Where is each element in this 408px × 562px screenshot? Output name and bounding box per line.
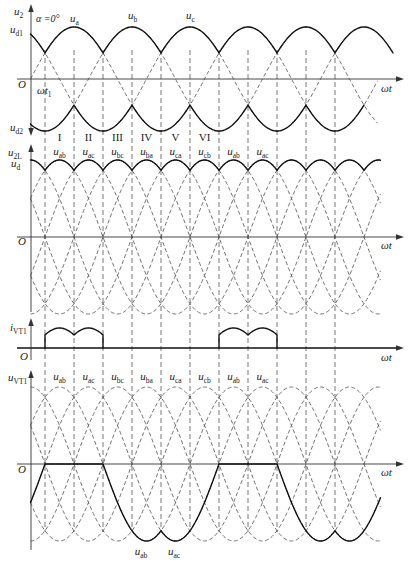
trough-label-uab: uab — [135, 545, 148, 560]
interval-label: uba — [140, 145, 153, 160]
vt1-voltage-curve — [31, 464, 381, 541]
interval-label: ucb — [198, 145, 211, 160]
origin-label: O — [18, 463, 26, 475]
interval-label: uab — [53, 370, 66, 385]
ud-envelope — [31, 160, 381, 170]
x-axis-arrow-icon — [396, 461, 404, 466]
y-axis-label-ivt1: iVT1 — [10, 321, 27, 336]
x-axis-label: ωt — [381, 239, 393, 251]
origin-label: O — [18, 235, 26, 247]
alpha-label: α =0° — [36, 13, 60, 24]
y-axis-down-arrow-icon — [28, 128, 33, 136]
interval-label: uac — [256, 145, 269, 160]
segment-label-3: III — [112, 131, 123, 143]
phase-b-label: ub — [128, 9, 138, 24]
x-axis-label: ωt — [381, 82, 393, 94]
origin-label: O — [20, 350, 28, 362]
interval-label: uab — [227, 370, 240, 385]
ud2-envelope — [31, 105, 365, 131]
x-axis-label: ωt — [381, 466, 393, 478]
vt1-voltage-panel: uVT1 uab uac ubc uba uca ucb uab uac O ω… — [8, 370, 404, 560]
commutation-lines — [45, 50, 335, 532]
y-axis-label-uvt1: uVT1 — [8, 371, 27, 386]
vt1-current-panel: iVT1 O ωt — [10, 318, 404, 363]
ud2-label: ud2 — [10, 121, 23, 136]
segment-label-5: V — [172, 131, 180, 143]
interval-label: uac — [256, 370, 269, 385]
interval-label: uab — [53, 145, 66, 160]
x-axis-label: ωt — [381, 351, 393, 363]
x-axis-arrow-icon — [396, 76, 404, 81]
origin-label: O — [18, 78, 26, 90]
segment-label-6: VI — [199, 131, 211, 143]
phase-a-label: ua — [70, 12, 80, 27]
interval-label: ucb — [198, 370, 211, 385]
interval-label: uca — [169, 145, 182, 160]
trough-label-uac: uac — [168, 545, 181, 560]
x-axis-arrow-icon — [396, 345, 404, 350]
interval-label: uac — [82, 370, 95, 385]
phase-voltage-panel: u2 α =0° ua ub uc ud1 O ωt1 ud2 ωt I II … — [10, 4, 404, 143]
y-axis-up-arrow-icon — [28, 370, 33, 378]
y-axis-label-u2: u2 — [14, 5, 24, 20]
y-axis-up-arrow-icon — [28, 144, 33, 152]
x-axis-arrow-icon — [396, 234, 404, 239]
y-axis-up-arrow-icon — [28, 318, 33, 326]
y-axis-up-arrow-icon — [28, 4, 33, 12]
wt1-label: ωt1 — [37, 84, 52, 99]
segment-label-2: II — [85, 131, 93, 143]
interval-label: uca — [169, 370, 182, 385]
interval-label: ubc — [111, 370, 124, 385]
rectifier-waveform-diagram: u2 α =0° ua ub uc ud1 O ωt1 ud2 ωt I II … — [0, 0, 408, 562]
segment-label-1: I — [58, 131, 62, 143]
phase-c-label: uc — [186, 9, 196, 24]
line-voltage-panel: u2L ud uab uac ubc uba uca ucb uab uac O… — [8, 144, 404, 314]
segment-label-4: IV — [141, 131, 153, 143]
interval-label: ubc — [111, 145, 124, 160]
ud1-envelope — [31, 27, 394, 53]
interval-label: uac — [82, 145, 95, 160]
interval-label: uba — [140, 370, 153, 385]
ud1-label: ud1 — [10, 23, 23, 38]
interval-label: uab — [227, 145, 240, 160]
